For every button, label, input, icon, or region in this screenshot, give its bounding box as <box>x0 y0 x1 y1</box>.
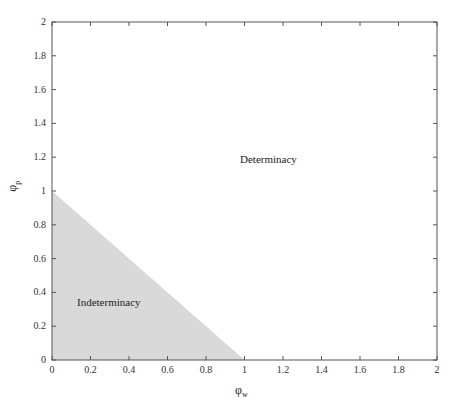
y-tick-label: 1 <box>41 185 46 196</box>
x-tick-label: 0.2 <box>84 364 97 375</box>
y-tick-label: 2 <box>41 16 46 27</box>
y-tick-label: 1.8 <box>34 50 47 61</box>
determinacy-label: Determinacy <box>240 153 297 165</box>
x-tick-label: 2 <box>435 364 440 375</box>
y-tick-label: 0.4 <box>34 286 47 297</box>
determinacy-chart: 00.20.40.60.811.21.41.61.8200.20.40.60.8… <box>0 0 453 407</box>
xlabel-phi: φ <box>235 383 242 397</box>
x-tick-label: 0.8 <box>200 364 213 375</box>
ylabel: φp <box>5 181 21 192</box>
xlabel-sub: w <box>242 390 248 399</box>
y-tick-label: 0.6 <box>34 253 47 264</box>
x-tick-label: 0.4 <box>123 364 136 375</box>
region-indeterminacy <box>52 191 245 360</box>
ylabel-sub: p <box>13 181 22 185</box>
x-tick-label: 1.2 <box>277 364 290 375</box>
indeterminacy-label: Indeterminacy <box>77 296 141 308</box>
x-tick-label: 0.6 <box>161 364 174 375</box>
y-tick-label: 1.6 <box>34 84 47 95</box>
x-tick-label: 1.4 <box>315 364 328 375</box>
ylabel-phi: φ <box>5 185 19 192</box>
y-tick-label: 1.4 <box>34 117 47 128</box>
x-tick-label: 1.8 <box>392 364 405 375</box>
y-tick-label: 0.2 <box>34 320 47 331</box>
x-tick-label: 1 <box>242 364 247 375</box>
y-tick-label: 0 <box>41 354 46 365</box>
x-tick-label: 1.6 <box>354 364 367 375</box>
y-tick-label: 0.8 <box>34 219 47 230</box>
x-tick-label: 0 <box>50 364 55 375</box>
xlabel: φw <box>235 383 248 399</box>
y-tick-label: 1.2 <box>34 151 47 162</box>
